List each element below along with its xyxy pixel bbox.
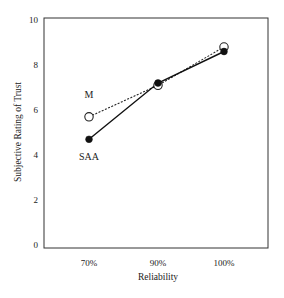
y-tick-label: 8	[34, 60, 39, 70]
y-tick-label: 4	[34, 150, 39, 160]
marker-filled-circle	[86, 136, 93, 143]
y-tick-label: 10	[29, 15, 39, 25]
series-layer	[85, 43, 228, 143]
series-label-saa: SAA	[79, 151, 100, 162]
y-axis-title: Subjective Rating of Trust	[13, 82, 23, 182]
line-chart: 0246810 70%90%100% Reliability Subjectiv…	[0, 0, 284, 298]
plot-frame	[44, 18, 268, 248]
x-axis-ticks: 70%90%100%	[81, 258, 235, 268]
marker-filled-circle	[221, 48, 228, 55]
chart: 0246810 70%90%100% Reliability Subjectiv…	[0, 0, 284, 298]
x-tick-label: 90%	[150, 258, 167, 268]
x-axis-title: Reliability	[138, 272, 178, 282]
x-tick-label: 100%	[214, 258, 236, 268]
y-tick-label: 0	[34, 240, 39, 250]
marker-open-circle	[85, 113, 93, 121]
series-line-saa	[89, 52, 224, 140]
series-label-m: M	[85, 89, 94, 100]
x-tick-label: 70%	[81, 258, 98, 268]
marker-filled-circle	[155, 80, 162, 87]
y-axis-ticks: 0246810	[29, 15, 39, 250]
y-tick-label: 2	[34, 195, 39, 205]
y-tick-label: 6	[34, 105, 39, 115]
